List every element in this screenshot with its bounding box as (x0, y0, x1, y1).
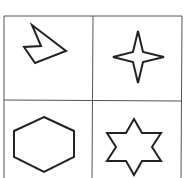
shape-grid (0, 0, 187, 178)
irregular-polygon-shape (24, 25, 66, 63)
hexagon-shape (14, 117, 74, 172)
six-point-star-shape (107, 119, 161, 175)
four-point-star-shape (113, 31, 164, 83)
